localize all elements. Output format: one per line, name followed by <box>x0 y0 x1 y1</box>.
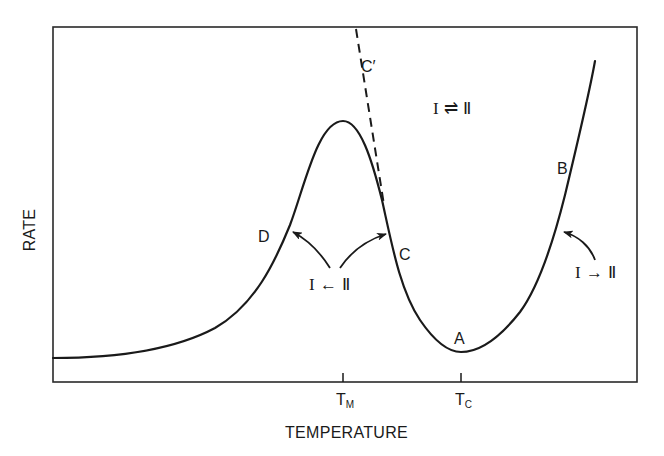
tick-label-tc: TC <box>455 392 472 410</box>
point-label-d: D <box>258 229 270 245</box>
tick-label-tm-main: T <box>336 391 346 408</box>
annotation-equilibrium: I ⇌ Ⅱ <box>433 100 472 117</box>
point-label-b: B <box>557 161 568 177</box>
tick-label-tc-main: T <box>455 391 465 408</box>
rate-curve <box>53 61 595 358</box>
tick-label-tm-sub: M <box>346 399 354 410</box>
tick-label-tc-sub: C <box>465 399 472 410</box>
rate-vs-temperature-diagram: RATE TEMPERATURE TM TC A B C C′ D I ⇌ Ⅱ … <box>0 0 664 456</box>
x-axis-title: TEMPERATURE <box>285 425 408 441</box>
plot-frame <box>53 27 637 382</box>
annotation-reverse-reaction: I ← Ⅱ <box>309 276 351 293</box>
arrow-to-c <box>340 234 386 268</box>
y-axis-title: RATE <box>22 205 38 255</box>
annotation-forward-reaction: I → Ⅱ <box>575 264 617 281</box>
point-label-c: C <box>399 247 411 263</box>
diagram-canvas <box>0 0 664 456</box>
tick-label-tm: TM <box>336 392 354 410</box>
point-label-a: A <box>454 331 465 347</box>
arrow-to-b <box>564 232 595 260</box>
arrow-to-d <box>293 232 330 268</box>
point-label-c-prime: C′ <box>361 59 376 75</box>
dashed-line-c-prime <box>356 29 384 205</box>
